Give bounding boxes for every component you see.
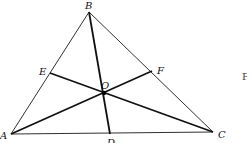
label-d: D <box>106 137 115 143</box>
label-a: A <box>0 130 7 141</box>
edge-fragment: F <box>242 71 247 82</box>
label-f: F <box>156 65 165 76</box>
point-o-dot <box>102 91 106 95</box>
cevian-ce <box>50 73 213 132</box>
label-o: O <box>101 80 109 91</box>
triangle-diagram: B A C D E F O F <box>0 0 247 143</box>
label-c: C <box>218 129 226 140</box>
label-b: B <box>84 0 92 11</box>
label-e: E <box>38 66 47 77</box>
cevian-bd <box>89 12 110 134</box>
side-ac <box>11 132 213 134</box>
